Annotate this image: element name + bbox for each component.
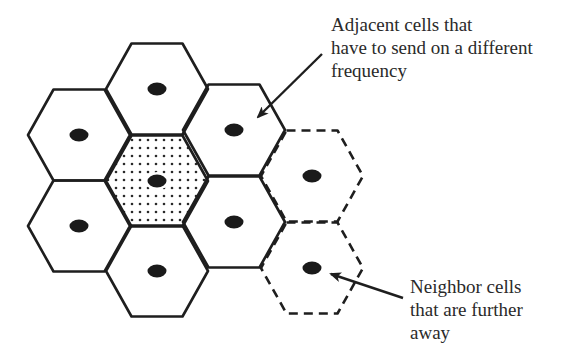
neighbor-label-line-1: Neighbor cells (410, 275, 523, 298)
cells-layer (28, 44, 363, 317)
base-station-icon (225, 124, 244, 137)
neighbor-cells-label: Neighbor cells that are further away (410, 275, 523, 344)
neighbor-label-line-3: away (410, 321, 523, 344)
base-station-icon (303, 170, 322, 183)
adjacent-label-line-1: Adjacent cells that (331, 13, 533, 36)
base-station-icon (303, 262, 322, 275)
adjacent-arrow-icon (258, 54, 322, 117)
adjacent-cells-label: Adjacent cells that have to send on a di… (331, 13, 533, 82)
base-station-icon (148, 175, 167, 188)
neighbor-arrow-icon (331, 274, 403, 298)
adjacent-label-line-2: have to send on a different (331, 36, 533, 59)
base-station-icon (148, 83, 167, 96)
adjacent-label-line-3: frequency (331, 59, 533, 82)
base-station-icon (70, 129, 89, 142)
base-station-icon (148, 265, 167, 278)
arrows-layer (258, 54, 403, 298)
base-station-icon (70, 220, 89, 233)
base-station-icon (225, 216, 244, 229)
neighbor-label-line-2: that are further (410, 298, 523, 321)
